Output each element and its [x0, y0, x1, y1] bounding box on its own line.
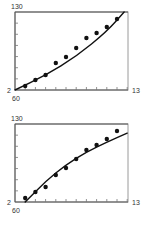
chart-bottom: 130 2 60 13: [0, 112, 146, 224]
data-point: [84, 148, 88, 152]
data-point: [54, 173, 58, 177]
data-point: [105, 137, 109, 141]
data-point: [84, 36, 88, 40]
fit-line: [15, 12, 124, 90]
y-min-label: 2: [7, 199, 11, 206]
chart-top: 130 2 60 13: [0, 0, 146, 112]
data-point: [33, 190, 37, 194]
data-point: [23, 84, 27, 88]
data-point: [115, 129, 119, 133]
data-point: [94, 31, 98, 35]
data-point: [33, 78, 37, 82]
data-point: [23, 196, 27, 200]
data-point: [74, 157, 78, 161]
fit-line: [25, 133, 127, 202]
chart-top-plot: [0, 0, 146, 112]
data-point: [54, 61, 58, 65]
data-point: [64, 166, 68, 170]
x-max-label: 13: [132, 87, 140, 94]
x-min-label: 60: [12, 207, 20, 214]
data-point: [74, 46, 78, 50]
data-point: [43, 185, 47, 189]
y-max-label: 130: [11, 3, 23, 10]
y-min-label: 2: [7, 87, 11, 94]
x-min-label: 60: [12, 95, 20, 102]
data-point: [94, 143, 98, 147]
x-max-label: 13: [132, 199, 140, 206]
y-max-label: 130: [11, 115, 23, 122]
plot-frame: [15, 124, 128, 202]
plot-frame: [15, 12, 128, 90]
data-point: [105, 25, 109, 29]
chart-bottom-plot: [0, 112, 146, 224]
data-point: [115, 17, 119, 21]
data-point: [43, 73, 47, 77]
data-point: [64, 55, 68, 59]
